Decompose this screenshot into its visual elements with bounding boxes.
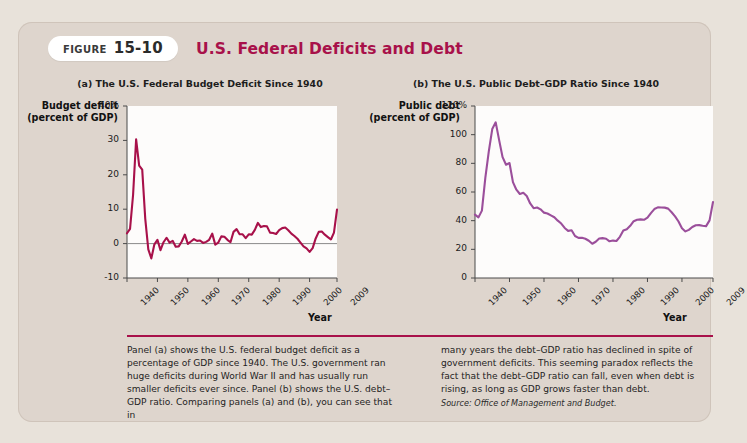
y-tick-label: 0 (427, 272, 467, 282)
y-tick-label: 120% (427, 100, 467, 110)
x-tick-label: 2009 (724, 285, 747, 308)
figure-card: FIGURE 15-10 U.S. Federal Deficits and D… (18, 22, 711, 422)
y-tick-label: 60 (427, 186, 467, 196)
y-tick-label: 100 (427, 129, 467, 139)
y-tick-label: 40% (79, 100, 119, 110)
caption-right-text: many years the debt–GDP ratio has declin… (441, 345, 694, 394)
y-tick-label: 20 (427, 243, 467, 253)
y-tick-label: -10 (79, 272, 119, 282)
y-tick-label: 10 (79, 203, 119, 213)
y-tick-label: 40 (427, 215, 467, 225)
y-tick-label: 0 (79, 238, 119, 248)
caption-left-column: Panel (a) shows the U.S. federal budget … (127, 344, 399, 423)
y-tick-label: 20 (79, 169, 119, 179)
caption-source: Source: Office of Management and Budget. (441, 397, 713, 410)
caption-divider (127, 335, 713, 337)
y-tick-label: 80 (427, 157, 467, 167)
y-tick-label: 30 (79, 134, 119, 144)
caption-right-column: many years the debt–GDP ratio has declin… (441, 344, 713, 410)
